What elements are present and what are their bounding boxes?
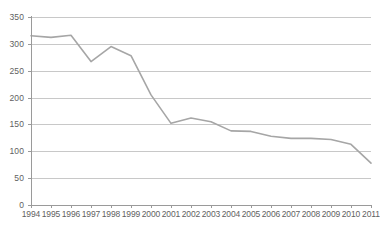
x-tick-label-1996: 1996 xyxy=(62,209,81,219)
line-chart: 050100150200250300350 199419951996199719… xyxy=(0,0,380,229)
y-tick-label-50: 50 xyxy=(14,173,24,183)
y-tick-label-100: 100 xyxy=(10,146,24,156)
x-tick-label-1998: 1998 xyxy=(102,209,121,219)
x-tick-label-2004: 2004 xyxy=(222,209,241,219)
y-axis-tick-labels: 050100150200250300350 xyxy=(0,0,29,229)
x-tick-label-2001: 2001 xyxy=(162,209,181,219)
x-tick-2004 xyxy=(231,205,232,208)
x-tick-label-2000: 2000 xyxy=(142,209,161,219)
x-tick-label-1997: 1997 xyxy=(82,209,101,219)
y-tick-label-150: 150 xyxy=(10,119,24,129)
x-tick-2001 xyxy=(171,205,172,208)
x-tick-1999 xyxy=(131,205,132,208)
x-tick-label-2008: 2008 xyxy=(302,209,321,219)
x-axis-tick-labels: 1994199519961997199819992000200120022003… xyxy=(31,209,371,229)
y-tick-350 xyxy=(28,17,31,18)
x-tick-2000 xyxy=(151,205,152,208)
x-tick-2003 xyxy=(211,205,212,208)
y-tick-label-350: 350 xyxy=(10,12,24,22)
x-tick-label-2006: 2006 xyxy=(262,209,281,219)
plot-area xyxy=(31,17,371,205)
x-tick-2011 xyxy=(371,205,372,208)
x-tick-2008 xyxy=(311,205,312,208)
x-tick-label-2007: 2007 xyxy=(282,209,301,219)
x-tick-2007 xyxy=(291,205,292,208)
x-tick-2005 xyxy=(251,205,252,208)
y-axis-line xyxy=(31,16,32,206)
x-tick-2006 xyxy=(271,205,272,208)
x-tick-label-1994: 1994 xyxy=(22,209,41,219)
x-tick-1997 xyxy=(91,205,92,208)
x-tick-1995 xyxy=(51,205,52,208)
x-tick-label-2002: 2002 xyxy=(182,209,201,219)
x-tick-2010 xyxy=(351,205,352,208)
x-tick-1998 xyxy=(111,205,112,208)
x-tick-1994 xyxy=(31,205,32,208)
y-tick-label-250: 250 xyxy=(10,66,24,76)
x-axis-line xyxy=(31,205,371,206)
y-tick-50 xyxy=(28,178,31,179)
x-tick-2002 xyxy=(191,205,192,208)
y-tick-200 xyxy=(28,98,31,99)
y-tick-100 xyxy=(28,151,31,152)
x-tick-label-1999: 1999 xyxy=(122,209,141,219)
x-tick-label-1995: 1995 xyxy=(42,209,61,219)
x-tick-label-2009: 2009 xyxy=(322,209,341,219)
y-tick-label-300: 300 xyxy=(10,39,24,49)
x-tick-label-2011: 2011 xyxy=(362,209,380,219)
series-polyline xyxy=(31,35,371,163)
y-tick-150 xyxy=(28,124,31,125)
x-tick-label-2010: 2010 xyxy=(342,209,361,219)
x-tick-2009 xyxy=(331,205,332,208)
data-series-line xyxy=(31,17,371,205)
y-tick-250 xyxy=(28,71,31,72)
y-tick-300 xyxy=(28,44,31,45)
x-tick-label-2003: 2003 xyxy=(202,209,221,219)
x-tick-1996 xyxy=(71,205,72,208)
x-tick-label-2005: 2005 xyxy=(242,209,261,219)
y-tick-label-200: 200 xyxy=(10,93,24,103)
